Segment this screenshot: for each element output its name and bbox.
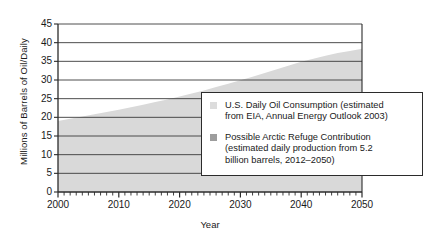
x-tick-2030: 2030 bbox=[210, 199, 270, 210]
legend-item-us-daily-oil-consumption: U.S. Daily Oil Consumption (estimated fr… bbox=[210, 100, 414, 123]
x-tick-2010: 2010 bbox=[89, 199, 149, 210]
legend-label-consumption-line1: U.S. Daily Oil Consumption (estimated bbox=[225, 100, 384, 110]
legend-label-arctic-line3: billion barrels, 2012–2050) bbox=[225, 155, 335, 165]
x-tick-2020: 2020 bbox=[150, 199, 210, 210]
legend-label-arctic: Possible Arctic Refuge Contribution (est… bbox=[225, 132, 373, 166]
legend-swatch-arctic bbox=[210, 134, 217, 141]
oil-consumption-area-chart: Millions of Barrels of Oil/Daily 0510152… bbox=[0, 0, 434, 238]
legend-label-arctic-line1: Possible Arctic Refuge Contribution bbox=[225, 132, 371, 142]
x-tick-2000: 2000 bbox=[28, 199, 88, 210]
chart-legend: U.S. Daily Oil Consumption (estimated fr… bbox=[201, 92, 423, 176]
legend-label-consumption-line2: from EIA, Annual Energy Outlook 2003) bbox=[225, 111, 388, 121]
legend-swatch-consumption bbox=[210, 102, 217, 109]
legend-item-arctic-refuge-contribution: Possible Arctic Refuge Contribution (est… bbox=[210, 132, 414, 166]
x-tick-2050: 2050 bbox=[332, 199, 392, 210]
legend-label-consumption: U.S. Daily Oil Consumption (estimated fr… bbox=[225, 100, 388, 123]
x-axis-label: Year bbox=[58, 219, 362, 230]
legend-label-arctic-line2: (estimated daily production from 5.2 bbox=[225, 143, 373, 153]
x-tick-2040: 2040 bbox=[271, 199, 331, 210]
